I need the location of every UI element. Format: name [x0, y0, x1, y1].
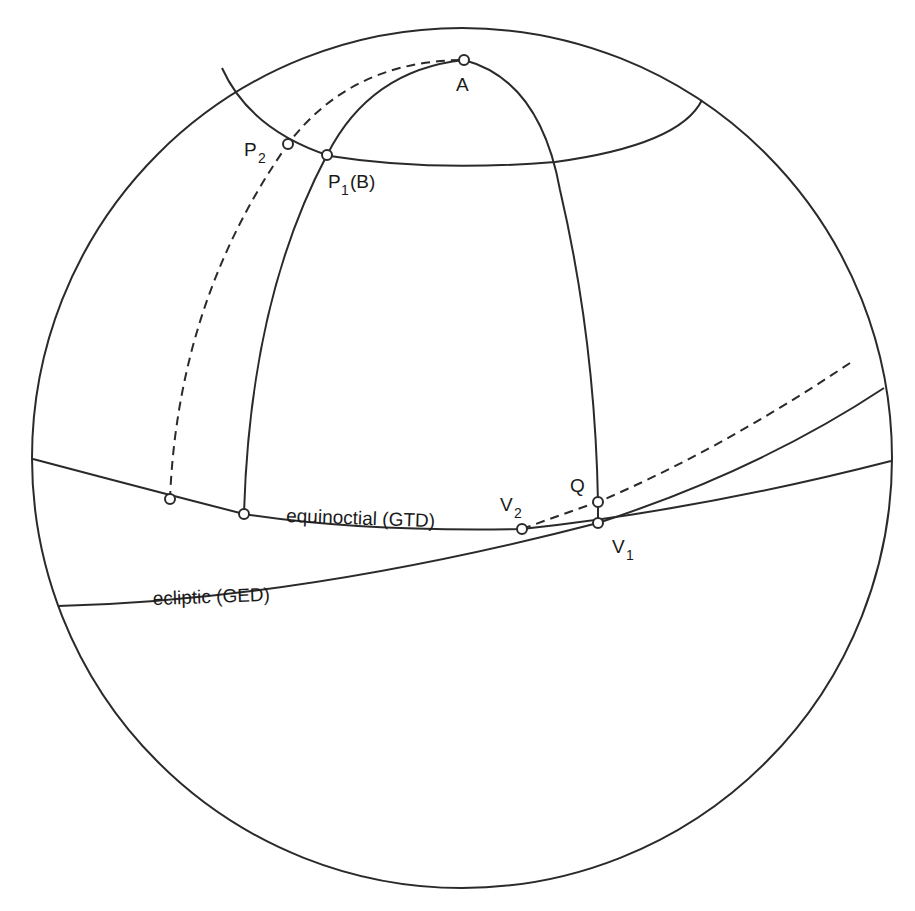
meridian-A-Q: [464, 60, 598, 502]
label-P2-sub: 2: [258, 150, 266, 166]
dashed-V2-Q-extension: [522, 363, 850, 529]
point-equinoctial-left: [165, 494, 175, 504]
label-V2-sub: 2: [514, 505, 522, 521]
point-P1-B: [322, 150, 332, 160]
label-P1-sub: 1: [341, 182, 349, 198]
label-Q: Q: [570, 475, 585, 496]
label-P2: P: [244, 139, 257, 160]
label-V2: V: [500, 494, 513, 515]
point-equinoctial-mid: [239, 509, 249, 519]
point-A: [459, 55, 469, 65]
celestial-sphere-diagram: A P 2 P 1 (B) Q V 2 V 1 equinoctial (GTD…: [0, 0, 915, 911]
label-equinoctial: equinoctial (GTD): [286, 505, 436, 531]
label-V1-sub: 1: [626, 547, 634, 563]
label-P1: P: [328, 171, 341, 192]
label-ecliptic: ecliptic (GED): [152, 584, 270, 609]
point-V2: [517, 524, 527, 534]
label-V1: V: [612, 536, 625, 557]
meridian-A-P2-dashed: [170, 60, 460, 499]
point-V1: [593, 518, 603, 528]
sphere-outline: [32, 28, 892, 888]
equinoctial-line: [33, 459, 891, 529]
label-A: A: [456, 74, 469, 95]
label-P1-suffix: (B): [350, 171, 375, 192]
meridian-A-P1: [244, 60, 464, 514]
point-Q: [593, 497, 603, 507]
point-P2: [283, 139, 293, 149]
